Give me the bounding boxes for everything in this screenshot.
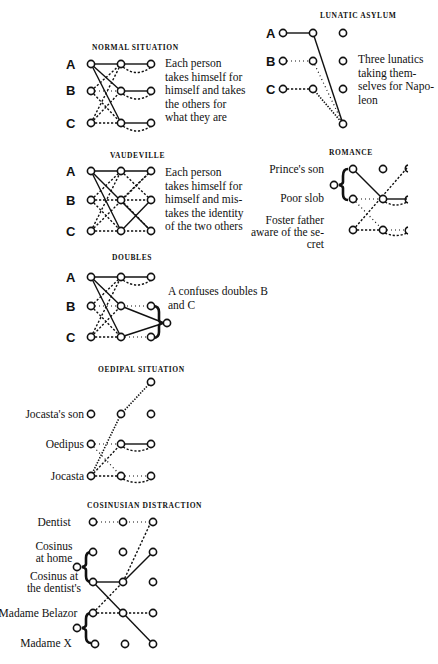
row-label-foster-father-line2: aware of the se-: [251, 226, 324, 238]
desc-line: taking them-: [358, 67, 434, 81]
desc-line: what they are: [165, 111, 245, 125]
row-label-c: C: [66, 330, 76, 345]
row-label-b: B: [66, 193, 75, 208]
desc-line: Three lunatics: [358, 53, 434, 67]
vaudeville-diagram: VAUDEVILLE A B C: [66, 151, 165, 239]
vaudeville-title: VAUDEVILLE: [110, 151, 165, 160]
row-label-c: C: [66, 116, 76, 131]
row-label-a: A: [66, 57, 76, 72]
desc-line: the others for: [165, 98, 245, 112]
romance-title: ROMANCE: [329, 148, 373, 157]
row-label-madame-x: Madame X: [20, 637, 72, 649]
desc-line: and C: [168, 299, 268, 313]
row-label-b: B: [266, 54, 275, 69]
normal-situation-description: Each person takes himself for himself an…: [165, 57, 245, 125]
doubles-description: A confuses doubles B and C: [168, 285, 268, 312]
row-label-poor-slob: Poor slob: [280, 192, 324, 204]
cosinusian-distraction-diagram: COSINUSIAN DISTRACTION Dentist Cosinus a…: [0, 501, 202, 649]
row-label-oedipus: Oedipus: [46, 438, 85, 451]
row-label-madame-belazor: Madame Belazor: [0, 607, 78, 619]
row-label-c: C: [266, 82, 276, 97]
row-label-a: A: [66, 270, 76, 285]
row-label-cosinus-at-home: Cosinus: [35, 540, 73, 552]
vaudeville-description: Each person takes himself for himself an…: [165, 166, 244, 234]
row-label-cosinus-at-dentist-line2: the dentist's: [27, 582, 82, 594]
desc-line: selves for Napo-: [358, 80, 434, 94]
desc-line: Each person: [165, 166, 244, 180]
normal-situation-title: NORMAL SITUATION: [92, 43, 179, 52]
desc-line: takes himself for: [165, 71, 245, 85]
desc-line: takes the identity: [165, 207, 244, 221]
oedipal-situation-diagram: OEDIPAL SITUATION Jocasta's son Oedipus …: [25, 365, 184, 483]
desc-line: of the two others: [165, 220, 244, 234]
row-label-b: B: [66, 299, 75, 314]
row-label-jocastas-son: Jocasta's son: [25, 408, 84, 420]
desc-line: A confuses doubles B: [168, 285, 268, 299]
desc-line: himself and takes: [165, 84, 245, 98]
row-label-foster-father-line3: cret: [307, 238, 325, 250]
row-label-cosinus-at-home-line2: at home: [36, 552, 73, 564]
row-label-a: A: [66, 164, 76, 179]
cosinusian-distraction-title: COSINUSIAN DISTRACTION: [87, 501, 202, 510]
doubles-title: DOUBLES: [112, 253, 152, 262]
lunatic-asylum-title: LUNATIC ASYLUM: [320, 11, 396, 20]
row-label-jocasta: Jocasta: [51, 470, 84, 482]
desc-line: himself and mis-: [165, 193, 244, 207]
row-label-foster-father: Foster father: [266, 214, 325, 226]
row-label-c: C: [66, 224, 76, 239]
row-label-b: B: [66, 83, 75, 98]
row-label-cosinus-at-dentist: Cosinus at: [30, 570, 79, 582]
doubles-diagram: DOUBLES A B C: [66, 253, 171, 345]
row-label-princes-son: Prince's son: [269, 163, 324, 175]
lunatic-asylum-description: Three lunatics taking them- selves for N…: [358, 53, 434, 107]
normal-situation-diagram: NORMAL SITUATION A B C: [66, 43, 179, 131]
row-label-a: A: [266, 26, 276, 41]
desc-line: leon: [358, 94, 434, 108]
desc-line: Each person: [165, 57, 245, 71]
romance-diagram: ROMANCE Prince's son Poor slob Foster fa…: [251, 148, 408, 250]
desc-line: takes himself for: [165, 180, 244, 194]
row-label-dentist: Dentist: [37, 516, 71, 528]
oedipal-situation-title: OEDIPAL SITUATION: [98, 365, 185, 374]
